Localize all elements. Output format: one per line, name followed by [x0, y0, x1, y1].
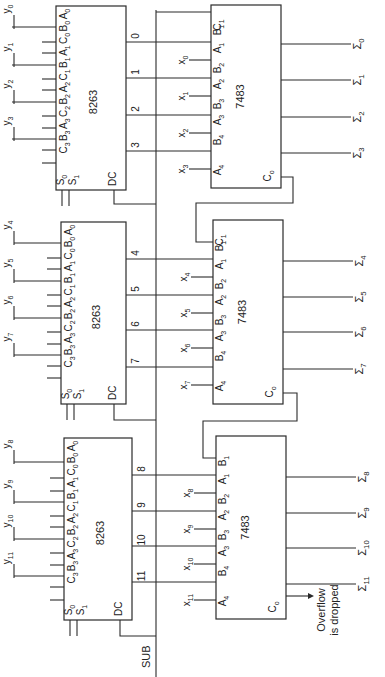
- sum-label: Σ11: [356, 577, 371, 592]
- sum-label: Σ3: [351, 147, 366, 158]
- chip-label: 7483: [236, 300, 248, 324]
- y-input-label: y2: [1, 79, 14, 88]
- sub-label: SUB: [140, 645, 152, 668]
- y-input-label: y8: [1, 439, 14, 448]
- pin-label: C1: [58, 69, 71, 80]
- x-input-label: x8: [181, 488, 194, 497]
- pin-label: B2: [66, 525, 79, 536]
- overflow-note: Overflow: [315, 588, 327, 631]
- dc-to-sub: [120, 620, 156, 636]
- circuit-diagram: 8263C3B3A3C2B2A2C1B1A1C0B0A0S0S1DCy0y1y2…: [0, 0, 385, 677]
- output-number: 2: [130, 106, 141, 112]
- sum-label: Σ4: [353, 255, 368, 267]
- pin-label: A3: [58, 118, 71, 129]
- y-input-label: y7: [1, 332, 14, 341]
- adder-pin-label: A2: [214, 295, 227, 306]
- sum-label: Σ7: [353, 363, 368, 374]
- sum-label: Σ6: [353, 326, 368, 337]
- y-input-label: y9: [1, 479, 14, 488]
- x-input-label: x4: [178, 272, 191, 281]
- pin-label: C0: [63, 248, 76, 259]
- pin-label: B1: [63, 273, 76, 284]
- chip-label: 8263: [90, 305, 102, 329]
- output-number: 3: [130, 142, 141, 148]
- pin-label: C3: [58, 142, 71, 153]
- x-input-label: x2: [176, 128, 189, 137]
- y-input-label: y10: [1, 515, 14, 528]
- pin-label: B1: [66, 489, 79, 500]
- pin-label: B0: [63, 237, 76, 248]
- y-input-label: y3: [1, 116, 14, 125]
- adder-pin-label: A1: [212, 43, 225, 54]
- x-input-label: x10: [181, 558, 194, 571]
- chip-label: 8263: [87, 90, 99, 114]
- pin-label: B1: [58, 57, 71, 68]
- chip-label: 8263: [94, 521, 106, 545]
- x-input-label: x1: [176, 91, 189, 100]
- dc-to-sub: [114, 190, 156, 204]
- sum-label: Σ1: [351, 74, 366, 85]
- pin-label: A0: [58, 9, 71, 20]
- output-number: 1: [130, 69, 141, 75]
- adder-pin-label: A4: [212, 165, 225, 176]
- s1-label: S1: [72, 389, 85, 400]
- adder-pin-label: B3: [217, 530, 230, 541]
- adder-pin-label: A1: [214, 259, 227, 270]
- pin-label: B3: [66, 561, 79, 572]
- dc-label: DC: [113, 602, 124, 616]
- pin-label: C2: [58, 106, 71, 117]
- x-input-label: x6: [178, 343, 191, 352]
- sum-label: Σ9: [356, 507, 371, 518]
- pin-label: B0: [66, 453, 79, 464]
- pin-label: A1: [58, 45, 71, 56]
- sum-label: Σ8: [356, 471, 371, 482]
- adder-pin-label: A2: [217, 510, 230, 521]
- output-number: 5: [130, 286, 141, 292]
- pin-label: A1: [63, 261, 76, 272]
- adder-pin-label: A2: [212, 79, 225, 90]
- pin-label: C1: [66, 500, 79, 511]
- adder-pin-label: B2: [214, 279, 227, 290]
- x-input-label: x7: [178, 380, 191, 389]
- adder-pin-label: A3: [217, 546, 230, 557]
- output-number: 9: [136, 502, 147, 508]
- dc-label: DC: [107, 172, 118, 186]
- dc-to-sub: [114, 404, 156, 420]
- adder-pin-label: B3: [214, 315, 227, 326]
- pin-label: A2: [66, 513, 79, 524]
- x-input-label: x0: [176, 55, 189, 64]
- y-input-label: y1: [1, 42, 14, 51]
- output-number: 10: [136, 534, 147, 546]
- y-input-label: y0: [1, 4, 14, 13]
- y-input-label: y6: [1, 295, 14, 304]
- output-number: 4: [130, 250, 141, 256]
- pin-label: C2: [66, 536, 79, 547]
- x-input-label: x11: [181, 594, 194, 606]
- x-input-label: x5: [178, 308, 191, 317]
- s1-label: S1: [67, 175, 80, 186]
- y-input-label: y11: [1, 552, 14, 564]
- adder-pin-label: B4: [212, 135, 225, 146]
- output-number: 6: [130, 321, 141, 327]
- s1-label: S1: [75, 605, 88, 616]
- y-input-label: y5: [1, 258, 14, 267]
- pin-label: C2: [63, 320, 76, 331]
- output-number: 8: [136, 466, 147, 472]
- adder-pin-label: A4: [217, 596, 230, 607]
- output-number: 0: [130, 33, 141, 39]
- co-label: Co: [267, 601, 280, 612]
- y-input-label: y4: [1, 220, 14, 229]
- sum-label: Σ0: [351, 38, 366, 49]
- pin-label: A2: [58, 82, 71, 93]
- adder-pin-label: A4: [214, 381, 227, 392]
- x-input-label: x3: [176, 164, 189, 173]
- pin-label: B3: [63, 345, 76, 356]
- pin-label: B0: [58, 21, 71, 32]
- chip-label: 7483: [234, 84, 246, 108]
- output-number: 11: [136, 570, 147, 581]
- pin-label: C1: [63, 284, 76, 295]
- sum-label: Σ10: [356, 540, 371, 555]
- pin-label: C0: [66, 464, 79, 475]
- adder-pin-label: A3: [214, 331, 227, 342]
- adder-pin-label: A3: [212, 115, 225, 126]
